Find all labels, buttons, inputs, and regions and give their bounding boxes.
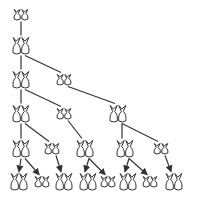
rabbit-icon xyxy=(20,174,27,191)
adult-rabbit-pair xyxy=(56,174,72,191)
arrow-connector xyxy=(85,159,89,172)
adult-rabbit-pair xyxy=(110,106,126,123)
rabbit-icon xyxy=(65,75,72,86)
rabbit-icon xyxy=(22,10,29,21)
adult-rabbit-pair xyxy=(13,106,29,123)
line-connector xyxy=(25,56,61,73)
adult-rabbit-pair xyxy=(11,174,27,191)
rabbit-icon xyxy=(13,38,20,55)
rabbit-icon xyxy=(56,174,63,191)
adult-rabbit-pair xyxy=(120,174,136,191)
rabbit-icon xyxy=(22,72,29,89)
arrow-connector xyxy=(89,159,105,175)
adult-rabbit-pair xyxy=(80,174,96,191)
rabbit-icon xyxy=(13,106,20,123)
adult-rabbit-pair xyxy=(77,141,93,158)
young-rabbit-pair xyxy=(154,144,168,155)
rabbit-icon xyxy=(11,174,18,191)
rabbit-icon xyxy=(101,177,108,188)
rabbit-icon xyxy=(129,174,136,191)
rabbit-icon xyxy=(65,174,72,191)
rabbit-icon xyxy=(89,174,96,191)
rabbit-icon xyxy=(109,177,116,188)
rabbit-icon xyxy=(13,141,20,158)
line-connector xyxy=(68,121,82,139)
rabbit-icon xyxy=(77,141,84,158)
rabbit-icon xyxy=(14,10,21,21)
young-rabbit-pair xyxy=(35,177,49,188)
young-rabbit-pair xyxy=(45,144,59,155)
arrow-connector xyxy=(25,159,39,175)
rabbit-icon xyxy=(166,174,173,191)
line-connector xyxy=(25,90,61,107)
tree-nodes xyxy=(11,10,182,191)
adult-rabbit-pair xyxy=(13,72,29,89)
adult-rabbit-pair xyxy=(117,141,133,158)
line-connector xyxy=(122,124,158,142)
young-rabbit-pair xyxy=(14,10,28,21)
rabbit-icon xyxy=(53,144,60,155)
rabbit-icon xyxy=(162,144,169,155)
rabbit-icon xyxy=(57,109,63,120)
rabbit-icon xyxy=(86,141,93,158)
adult-rabbit-pair xyxy=(13,38,29,55)
arrow-connector xyxy=(125,159,129,172)
arrow-connector xyxy=(19,159,21,172)
rabbit-icon xyxy=(35,177,42,188)
rabbit-icon xyxy=(126,141,133,158)
line-connector xyxy=(25,124,49,142)
rabbit-icon xyxy=(13,72,20,89)
fibonacci-rabbit-tree xyxy=(0,0,198,209)
rabbit-icon xyxy=(22,38,29,55)
rabbit-icon xyxy=(154,144,161,155)
rabbit-icon xyxy=(80,174,87,191)
line-connector xyxy=(68,87,115,104)
rabbit-icon xyxy=(45,144,52,155)
tree-edges xyxy=(19,22,171,175)
rabbit-icon xyxy=(175,174,182,191)
rabbit-icon xyxy=(22,141,29,158)
rabbit-icon xyxy=(57,75,63,86)
rabbit-icon xyxy=(119,106,126,123)
adult-rabbit-pair xyxy=(166,174,182,191)
arrow-connector xyxy=(56,156,61,172)
young-rabbit-pair xyxy=(57,75,71,86)
rabbit-icon xyxy=(43,177,50,188)
young-rabbit-pair xyxy=(101,177,115,188)
rabbit-icon xyxy=(117,141,124,158)
young-rabbit-pair xyxy=(57,109,71,120)
rabbit-icon xyxy=(120,174,127,191)
young-rabbit-pair xyxy=(143,177,157,188)
rabbit-icon xyxy=(65,109,72,120)
arrow-connector xyxy=(165,156,171,172)
adult-rabbit-pair xyxy=(13,141,29,158)
rabbit-icon xyxy=(151,177,158,188)
arrow-connector xyxy=(129,159,147,175)
rabbit-icon xyxy=(143,177,150,188)
rabbit-icon xyxy=(110,106,117,123)
rabbit-icon xyxy=(22,106,29,123)
